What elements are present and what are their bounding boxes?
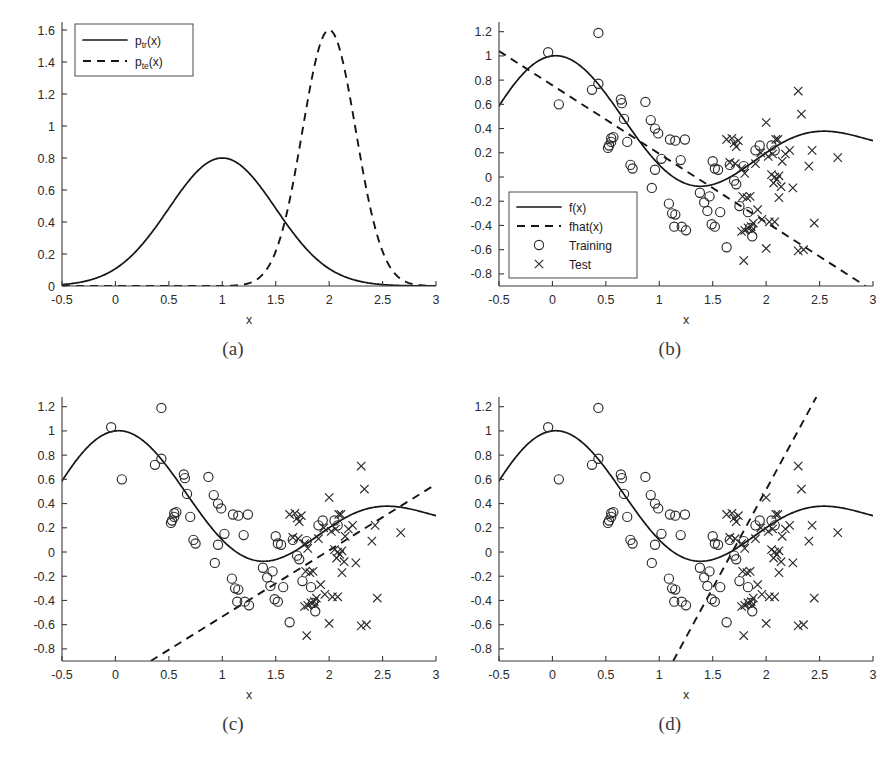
test-point bbox=[805, 537, 813, 545]
x-tick-label: -0.5 bbox=[488, 293, 510, 307]
y-tick-label: -0.4 bbox=[470, 219, 492, 233]
test-point bbox=[309, 567, 317, 575]
test-point bbox=[789, 184, 797, 192]
test-point bbox=[769, 179, 777, 187]
y-tick-label: 0.6 bbox=[38, 473, 55, 487]
legend: ptr(x)pte(x) bbox=[75, 24, 193, 76]
training-point bbox=[234, 585, 243, 594]
y-tick-label: -0.4 bbox=[470, 594, 492, 608]
training-point bbox=[279, 583, 288, 592]
training-point bbox=[695, 188, 704, 197]
x-tick-label: 3 bbox=[433, 293, 440, 307]
test-point bbox=[734, 136, 742, 144]
test-point bbox=[341, 532, 349, 540]
training-points bbox=[107, 403, 343, 627]
panel-b-plot: f(x)fhat(x)TrainingTest-0.500.511.522.53… bbox=[455, 8, 885, 338]
test-point bbox=[297, 511, 305, 519]
training-point bbox=[234, 511, 243, 520]
y-tick-label: -0.2 bbox=[33, 570, 55, 584]
test-point bbox=[770, 593, 778, 601]
training-point bbox=[594, 28, 603, 37]
training-point bbox=[209, 490, 218, 499]
y-tick-label: 0.6 bbox=[475, 473, 492, 487]
y-tick-label: 1.2 bbox=[38, 400, 55, 414]
y-tick-label: 1 bbox=[485, 49, 492, 63]
x-tick-label: 2 bbox=[763, 668, 770, 682]
panel-b: f(x)fhat(x)TrainingTest-0.500.511.522.53… bbox=[455, 8, 885, 338]
test-point bbox=[762, 619, 770, 627]
test-point bbox=[770, 218, 778, 226]
x-tick-label: 0 bbox=[112, 668, 119, 682]
test-point bbox=[762, 493, 770, 501]
training-point bbox=[671, 511, 680, 520]
test-point bbox=[808, 146, 816, 154]
legend-label: fhat(x) bbox=[569, 220, 603, 234]
training-point bbox=[716, 583, 725, 592]
y-tick-label: 1 bbox=[48, 424, 55, 438]
training-point bbox=[273, 597, 282, 606]
training-point bbox=[270, 595, 279, 604]
test-point bbox=[778, 532, 786, 540]
training-point bbox=[650, 165, 659, 174]
y-tick-label: 0.2 bbox=[38, 521, 55, 535]
test-point bbox=[778, 157, 786, 165]
panel-c-plot: -0.500.511.522.53-0.8-0.6-0.4-0.200.20.4… bbox=[18, 383, 448, 713]
x-tick-label: 0 bbox=[549, 668, 556, 682]
test-point bbox=[769, 554, 777, 562]
training-point bbox=[664, 199, 673, 208]
training-point bbox=[722, 243, 731, 252]
x-tick-label: 0.5 bbox=[597, 293, 614, 307]
training-point bbox=[664, 574, 673, 583]
training-point bbox=[671, 210, 680, 219]
test-point bbox=[321, 590, 329, 598]
test-point bbox=[797, 110, 805, 118]
training-point bbox=[646, 490, 655, 499]
test-point bbox=[808, 521, 816, 529]
test-point bbox=[746, 192, 754, 200]
training-point bbox=[680, 510, 689, 519]
x-tick-label: 0.5 bbox=[597, 668, 614, 682]
training-points bbox=[544, 403, 780, 627]
test-points bbox=[285, 462, 405, 640]
test-point bbox=[810, 219, 818, 227]
training-point bbox=[680, 135, 689, 144]
training-point bbox=[276, 540, 285, 549]
y-tick-label: 0.2 bbox=[475, 146, 492, 160]
y-tick-label: -0.6 bbox=[470, 618, 492, 632]
figure-root: ptr(x)pte(x)-0.500.511.522.5300.20.40.60… bbox=[0, 0, 895, 763]
y-tick-label: -0.4 bbox=[33, 594, 55, 608]
x-tick-label: 2 bbox=[326, 668, 333, 682]
training-point bbox=[707, 220, 716, 229]
test-point bbox=[325, 619, 333, 627]
panel-c: -0.500.511.522.53-0.8-0.6-0.4-0.200.20.4… bbox=[18, 383, 448, 713]
test-point bbox=[731, 534, 739, 542]
test-point bbox=[777, 183, 785, 191]
x-tick-label: 1 bbox=[219, 668, 226, 682]
test-point bbox=[368, 537, 376, 545]
training-point bbox=[623, 137, 632, 146]
test-point bbox=[740, 256, 748, 264]
test-point bbox=[777, 558, 785, 566]
test-point bbox=[357, 622, 365, 630]
panel-b-svg: f(x)fhat(x)TrainingTest-0.500.511.522.53… bbox=[455, 8, 885, 338]
training-point bbox=[623, 512, 632, 521]
test-point bbox=[775, 568, 783, 576]
x-tick-label: 1 bbox=[219, 293, 226, 307]
y-tick-label: 0.8 bbox=[38, 449, 55, 463]
training-point bbox=[710, 597, 719, 606]
x-axis-title: x bbox=[683, 688, 690, 702]
test-point bbox=[348, 521, 356, 529]
test-point bbox=[805, 162, 813, 170]
x-tick-label: 0 bbox=[549, 293, 556, 307]
x-tick-label: 1.5 bbox=[267, 668, 284, 682]
legend-label: Test bbox=[569, 258, 592, 272]
training-point bbox=[695, 563, 704, 572]
y-tick-label: 0.8 bbox=[475, 74, 492, 88]
x-tick-label: 2.5 bbox=[811, 668, 828, 682]
y-tick-label: 0.6 bbox=[475, 98, 492, 112]
x-tick-label: 1 bbox=[656, 668, 663, 682]
test-point bbox=[740, 631, 748, 639]
y-tick-label: 0 bbox=[48, 546, 55, 560]
panel-c-caption: (c) bbox=[18, 713, 448, 735]
test-point bbox=[732, 143, 740, 151]
